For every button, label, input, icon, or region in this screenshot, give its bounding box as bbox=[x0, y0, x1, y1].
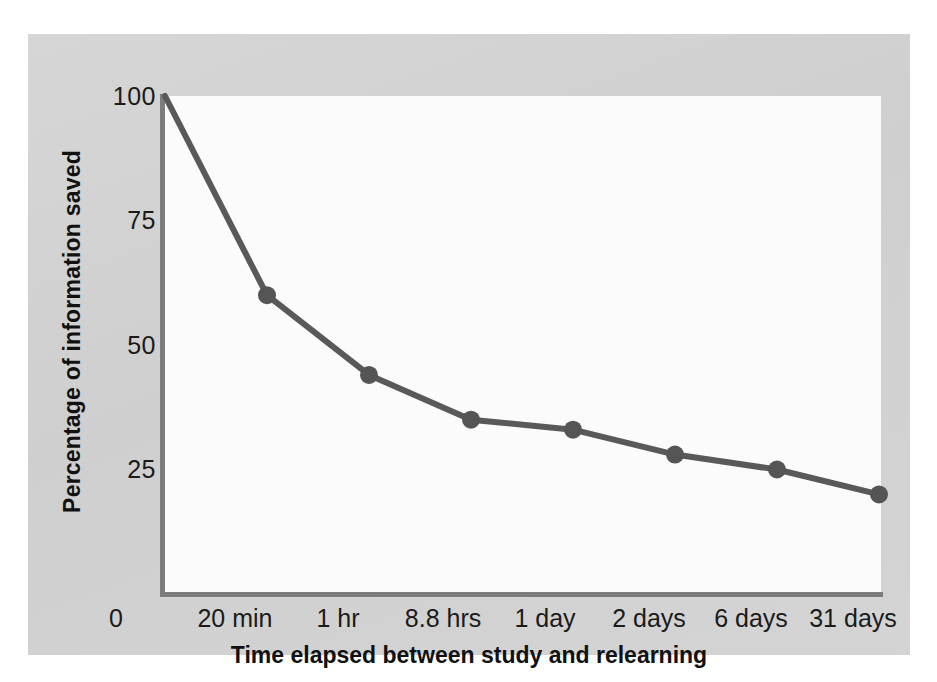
chart-panel: 100 75 50 25 Percentage of information s… bbox=[28, 34, 910, 655]
forgetting-curve-figure: 100 75 50 25 Percentage of information s… bbox=[0, 0, 937, 682]
y-tick-label: 25 bbox=[94, 455, 156, 484]
y-axis-title: Percentage of information saved bbox=[59, 82, 86, 582]
x-axis-title: Time elapsed between study and relearnin… bbox=[28, 642, 910, 669]
y-axis-tick-labels: 100 75 50 25 bbox=[84, 34, 156, 655]
x-tick-label: 31 days bbox=[783, 604, 923, 633]
data-point-marker bbox=[870, 485, 888, 503]
data-point-marker bbox=[564, 421, 582, 439]
data-point-marker bbox=[768, 461, 786, 479]
y-tick-label: 100 bbox=[94, 82, 156, 111]
data-series-line bbox=[28, 34, 937, 682]
x-axis-tick-labels: 0 20 min 1 hr 8.8 hrs 1 day 2 days 6 day… bbox=[28, 604, 910, 644]
y-tick-label: 50 bbox=[94, 331, 156, 360]
y-tick-label: 75 bbox=[94, 206, 156, 235]
data-point-marker bbox=[360, 366, 378, 384]
data-point-marker bbox=[462, 411, 480, 429]
data-point-marker bbox=[258, 286, 276, 304]
data-point-marker bbox=[666, 446, 684, 464]
